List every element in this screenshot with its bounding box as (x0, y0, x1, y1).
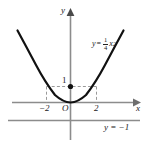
curve-equation-fraction: 1 4 (103, 37, 108, 52)
y-axis-label: y (61, 6, 65, 15)
fraction-numerator: 1 (103, 37, 108, 44)
origin-label: O (62, 104, 69, 113)
point-marker-0-1 (68, 84, 73, 89)
parabola-figure: y x O −2 2 1 y = 1 4 x 2 y = −1 (0, 0, 148, 148)
y-axis-arrowhead (67, 8, 75, 16)
line-label-y-equals-minus-1: y = −1 (104, 123, 129, 132)
x-axis-label: x (136, 104, 140, 113)
curve-equation-exponent: 2 (113, 42, 116, 48)
curve-equation-y: y (92, 40, 96, 48)
curve-equation-label: y = 1 4 x 2 (92, 37, 116, 52)
fraction-denominator: 4 (103, 44, 108, 52)
y-tick-label-1: 1 (62, 76, 67, 85)
x-tick-label-minus-2: −2 (39, 104, 50, 113)
curve-equation-equals: = (97, 40, 102, 48)
x-tick-label-2: 2 (94, 104, 99, 113)
